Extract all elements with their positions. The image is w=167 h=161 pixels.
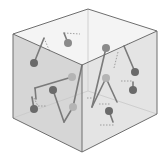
atom-ball bbox=[105, 107, 113, 115]
atom-ball bbox=[102, 74, 110, 82]
stick-bond bbox=[35, 88, 36, 99]
atom-ball bbox=[30, 59, 38, 67]
cube-faces bbox=[13, 9, 157, 152]
atom-ball bbox=[68, 73, 76, 81]
cube-diagram bbox=[0, 0, 167, 161]
cube-illustration bbox=[0, 0, 167, 161]
atom-ball bbox=[102, 44, 110, 52]
atom-ball bbox=[69, 103, 77, 111]
atom-ball bbox=[49, 86, 57, 94]
atom-ball bbox=[129, 86, 137, 94]
atom-ball bbox=[30, 105, 38, 113]
atom-ball bbox=[131, 68, 139, 76]
atom-ball bbox=[64, 39, 72, 47]
